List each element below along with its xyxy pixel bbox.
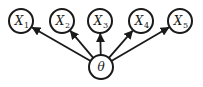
node-label: X [55, 14, 65, 28]
node-subscript: 1 [24, 21, 29, 30]
node-x1: X1 [9, 9, 33, 33]
node-subscript: 4 [144, 21, 149, 30]
node-x2: X2 [50, 9, 74, 33]
edge-theta-to-x4 [109, 31, 133, 58]
node-label: θ [97, 60, 105, 74]
edge-theta-to-x2 [70, 31, 93, 58]
node-x5: X5 [168, 9, 192, 33]
node-label: X [173, 14, 183, 28]
node-x3: X3 [88, 9, 112, 33]
node-theta: θ [89, 55, 113, 79]
node-label: X [14, 14, 24, 28]
node-label: X [134, 14, 144, 28]
node-subscript: 5 [183, 21, 188, 30]
node-x4: X4 [129, 9, 153, 33]
node-subscript: 3 [103, 21, 108, 30]
node-label: X [93, 14, 103, 28]
node-subscript: 2 [65, 21, 70, 30]
graphical-model-diagram: X1X2X3X4X5θ [0, 0, 203, 87]
